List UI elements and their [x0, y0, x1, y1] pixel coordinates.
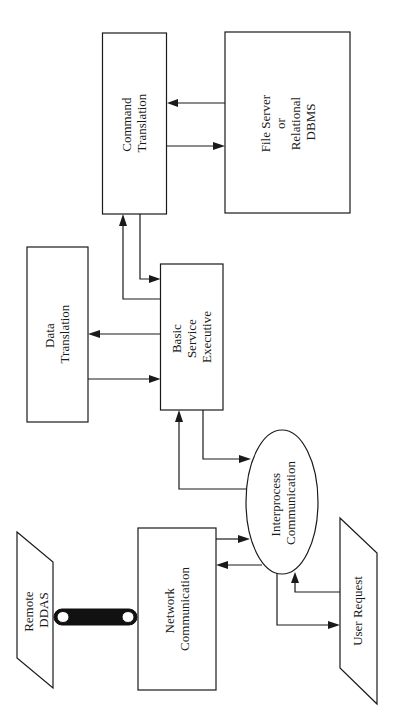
edge-ipc-to-user-request — [277, 573, 340, 629]
node-basic-service-executive: Basic Service Executive — [161, 264, 224, 410]
svg-text:Command Translation: Command Translation — [119, 93, 149, 152]
file-server-line-3: Relational — [288, 97, 303, 151]
node-user-request: User Request — [340, 518, 377, 704]
arrowhead-icon — [216, 561, 228, 569]
data-translation-line-2: Translation — [57, 304, 72, 363]
bse-line-3: Executive — [199, 311, 214, 363]
edge-ipc-to-network — [216, 561, 262, 569]
arrowhead-icon — [238, 535, 250, 543]
edge-user-request-to-ipc — [291, 572, 340, 592]
link-endpoint-icon — [57, 612, 69, 623]
node-data-translation: Data Translation — [27, 247, 88, 422]
data-translation-line-1: Data — [42, 323, 57, 348]
edge-command-translation-to-bse — [140, 214, 161, 283]
arrowhead-icon — [239, 455, 251, 463]
edge-ipc-to-bse — [175, 410, 247, 489]
bse-line-1: Basic — [169, 324, 184, 353]
node-network-communication: Network Communication — [138, 528, 216, 690]
node-interprocess-communication: Interprocess Communication — [246, 430, 318, 574]
arrowhead-icon — [213, 142, 225, 150]
arrowhead-icon — [175, 410, 183, 422]
ddas-architecture-diagram: Command Translation File Server or Relat… — [0, 0, 398, 719]
edge-data-translation-to-bse — [88, 375, 161, 383]
arrowhead-icon — [119, 214, 127, 226]
command-translation-line-1: Command — [119, 97, 134, 152]
ipc-line-2: Communication — [283, 461, 298, 545]
file-server-line-2: or — [273, 118, 288, 130]
file-server-line-1: File Server — [258, 94, 273, 152]
edge-command-translation-to-file-server — [166, 142, 225, 150]
node-remote-ddas: Remote DDAS — [17, 532, 53, 688]
file-server-line-4: DBMS — [303, 104, 318, 141]
edge-network-to-ipc — [216, 535, 250, 543]
remote-ddas-line-2: DDAS — [36, 592, 51, 627]
bse-line-2: Service — [184, 319, 199, 358]
arrowhead-icon — [88, 330, 100, 338]
node-file-server: File Server or Relational DBMS — [225, 32, 350, 213]
network-link-connector — [54, 609, 137, 625]
arrowhead-icon — [328, 621, 340, 629]
network-communication-line-1: Network — [162, 587, 177, 633]
link-endpoint-icon — [122, 612, 134, 623]
svg-text:User Request: User Request — [350, 576, 365, 646]
edge-bse-to-ipc — [203, 410, 251, 463]
node-command-translation: Command Translation — [103, 33, 167, 214]
edge-bse-to-data-translation — [88, 330, 161, 338]
user-request-label: User Request — [350, 576, 365, 646]
svg-text:Remote DDAS: Remote DDAS — [21, 588, 51, 632]
arrowhead-icon — [149, 375, 161, 383]
network-communication-line-2: Communication — [177, 567, 192, 651]
arrowhead-icon — [167, 99, 178, 107]
ipc-line-1: Interprocess — [268, 473, 283, 537]
arrowhead-icon — [149, 275, 161, 283]
remote-ddas-line-1: Remote — [21, 591, 36, 632]
arrowhead-icon — [291, 572, 299, 583]
svg-text:Interprocess Communicati: Interprocess Communication — [268, 461, 298, 545]
edge-file-server-to-command-translation — [167, 99, 225, 107]
command-translation-line-2: Translation — [134, 93, 149, 152]
